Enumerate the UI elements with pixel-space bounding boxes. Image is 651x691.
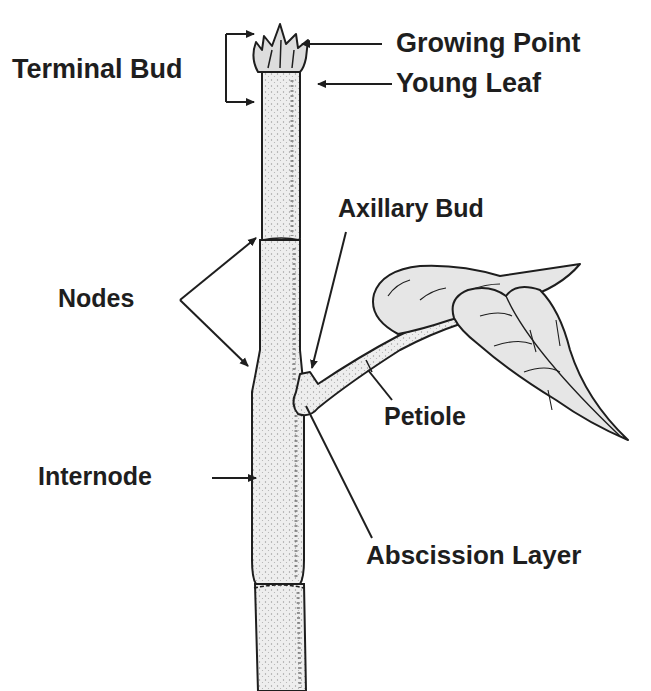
- label-axillary-bud: Axillary Bud: [338, 196, 484, 221]
- label-abscission-layer: Abscission Layer: [366, 542, 581, 568]
- petiole: [293, 314, 460, 415]
- label-petiole: Petiole: [384, 404, 466, 429]
- label-growing-point: Growing Point: [396, 30, 580, 57]
- label-nodes: Nodes: [58, 286, 134, 311]
- label-terminal-bud: Terminal Bud: [12, 56, 183, 83]
- label-internode: Internode: [38, 464, 152, 489]
- terminal-bud: [253, 24, 308, 72]
- plant-stem-diagram: Terminal Bud Growing Point Young Leaf Ax…: [0, 0, 651, 691]
- stem-illustration: [0, 0, 651, 691]
- label-young-leaf: Young Leaf: [396, 70, 541, 97]
